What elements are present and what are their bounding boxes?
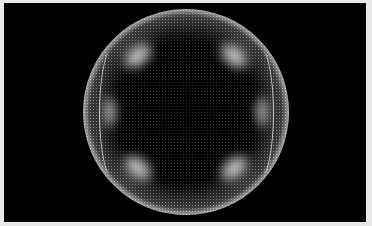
image-frame xyxy=(4,3,366,222)
dotted-sphere xyxy=(83,9,289,215)
seam-left xyxy=(99,45,130,181)
seam-right xyxy=(243,45,274,181)
